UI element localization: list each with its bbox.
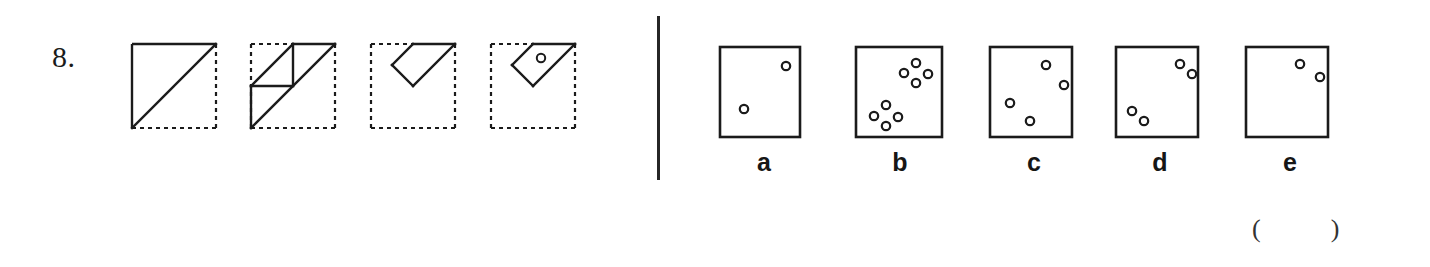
option-d-figure[interactable] (1110, 42, 1210, 146)
fold-stage-2-fold-line-4 (251, 44, 293, 86)
fold-stage-3-fold-line-3 (392, 65, 413, 86)
option-e-square[interactable] (1246, 47, 1328, 137)
fold-stage-3-drawing (363, 38, 463, 138)
option-c-square[interactable] (990, 47, 1072, 137)
question-canvas: 8. a b c d e ( ) (0, 0, 1430, 267)
fold-stage-1-fold-line-1 (132, 44, 216, 128)
option-label-a[interactable]: a (716, 148, 812, 177)
option-a-figure[interactable] (714, 42, 814, 146)
fold-stage-1-drawing (124, 38, 224, 138)
option-c-drawing[interactable] (984, 42, 1084, 146)
fold-stage-2-drawing (243, 38, 343, 138)
fold-stage-4-fold-line-3 (512, 65, 533, 86)
fold-stage-4-drawing (483, 38, 583, 138)
option-label-c[interactable]: c (986, 148, 1082, 177)
vertical-divider-rule (657, 16, 660, 180)
fold-stage-4 (483, 38, 583, 138)
fold-stage-4-fold-line-4 (512, 44, 533, 65)
fold-stage-3-fold-line-2 (413, 44, 455, 86)
option-b-square[interactable] (856, 47, 942, 137)
option-a-drawing[interactable] (714, 42, 814, 146)
fold-stage-1 (124, 38, 224, 138)
fold-stage-2 (243, 38, 343, 138)
option-a-square[interactable] (720, 47, 800, 137)
option-label-d[interactable]: d (1112, 148, 1208, 177)
answer-blank[interactable]: ( ) (1252, 214, 1341, 244)
option-b-figure[interactable] (850, 42, 950, 146)
question-number: 8. (52, 40, 76, 74)
option-e-drawing[interactable] (1240, 42, 1340, 146)
fold-stage-4-punch-hole-1 (537, 54, 545, 62)
fold-stage-3 (363, 38, 463, 138)
option-d-square[interactable] (1116, 47, 1198, 137)
option-e-figure[interactable] (1240, 42, 1340, 146)
fold-stage-3-fold-line-4 (392, 44, 413, 65)
option-label-e[interactable]: e (1242, 148, 1338, 177)
fold-stage-4-fold-line-2 (533, 44, 575, 86)
option-label-b[interactable]: b (852, 148, 948, 177)
option-c-figure[interactable] (984, 42, 1084, 146)
option-b-drawing[interactable] (850, 42, 950, 146)
option-d-drawing[interactable] (1110, 42, 1210, 146)
